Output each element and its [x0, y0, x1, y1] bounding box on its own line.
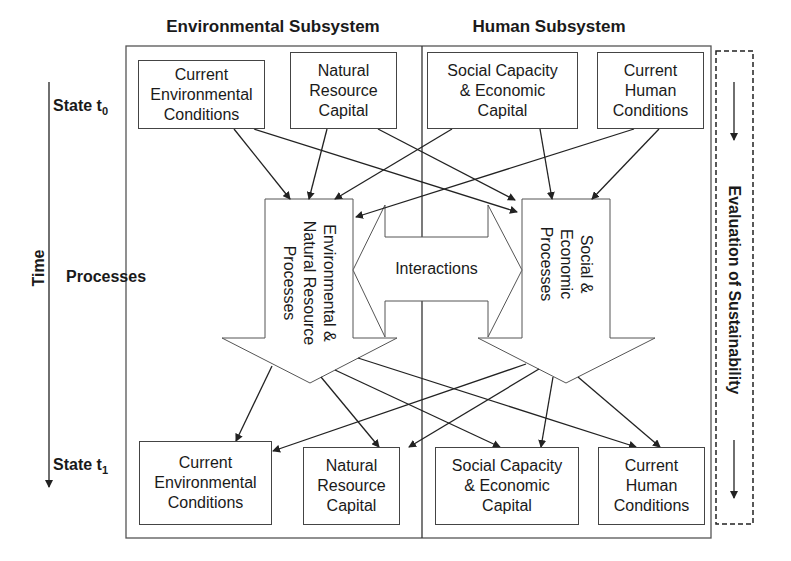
- social-economic-capital-t1-box: Social Capacity & Economic Capital: [435, 447, 579, 525]
- evaluation-of-sustainability-label: Evaluation of Sustainability: [725, 186, 743, 395]
- human-conditions-t1-box: Current Human Conditions: [598, 447, 705, 525]
- box-label: Natural Resource Capital: [317, 456, 385, 516]
- box-label: Current Human Conditions: [613, 61, 689, 121]
- state-t1-subscript: 1: [102, 464, 108, 476]
- natural-resource-capital-t0-box: Natural Resource Capital: [290, 52, 397, 129]
- box-label: Current Environmental Conditions: [150, 65, 252, 125]
- social-processes-label: Social & Economic Processes: [536, 184, 596, 344]
- processes-label: Processes: [66, 268, 146, 286]
- env-conditions-t0-box: Current Environmental Conditions: [138, 60, 265, 129]
- social-economic-capital-t0-box: Social Capacity & Economic Capital: [427, 52, 578, 129]
- environmental-processes-label: Environmental & Natural Resource Process…: [279, 183, 339, 383]
- state-t0-label: State t0: [53, 97, 108, 117]
- box-label: Current Environmental Conditions: [154, 453, 256, 513]
- human-subsystem-header: Human Subsystem: [424, 17, 674, 37]
- box-label: Social Capacity & Economic Capital: [447, 61, 557, 121]
- interactions-label: Interactions: [385, 260, 488, 278]
- environmental-subsystem-header: Environmental Subsystem: [130, 17, 416, 37]
- box-label: Natural Resource Capital: [309, 61, 377, 121]
- state-t1-text: State t: [53, 456, 102, 473]
- env-conditions-t1-box: Current Environmental Conditions: [139, 441, 272, 525]
- time-axis-label: Time: [30, 249, 48, 286]
- box-label: Current Human Conditions: [614, 456, 690, 516]
- human-conditions-t0-box: Current Human Conditions: [597, 52, 704, 129]
- state-t0-subscript: 0: [102, 105, 108, 117]
- natural-resource-capital-t1-box: Natural Resource Capital: [303, 447, 400, 525]
- state-t0-text: State t: [53, 97, 102, 114]
- box-label: Social Capacity & Economic Capital: [452, 456, 562, 516]
- state-t1-label: State t1: [53, 456, 108, 476]
